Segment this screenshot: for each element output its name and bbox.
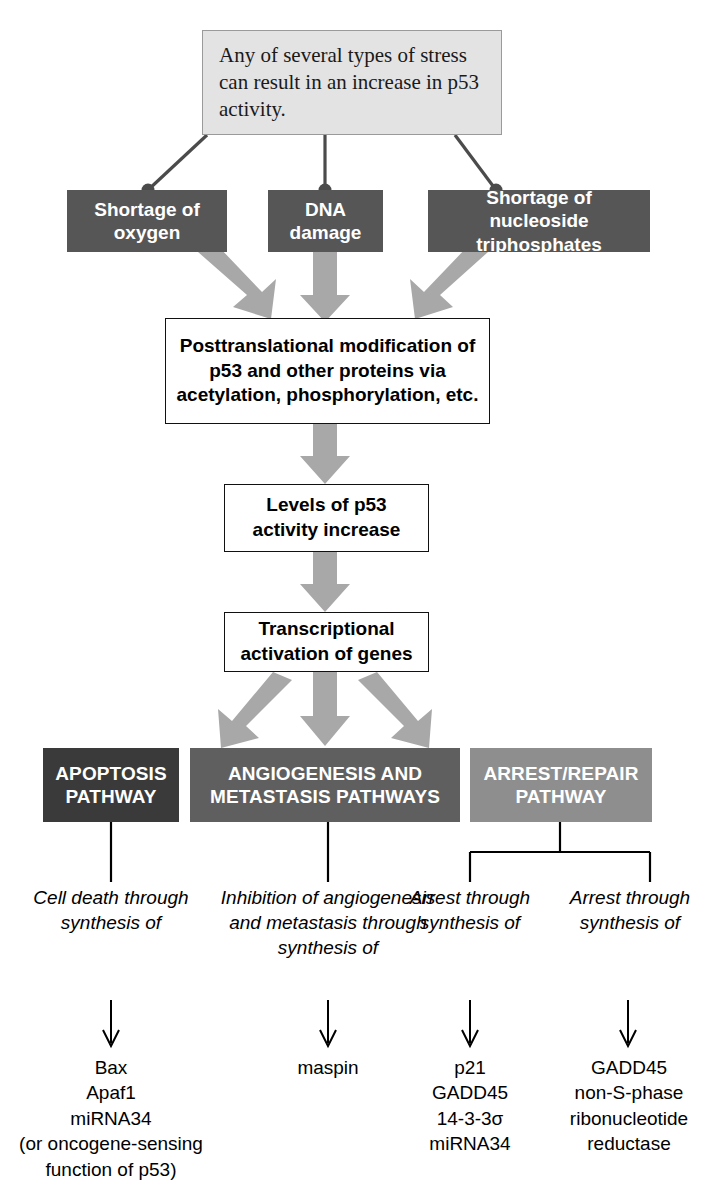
pathway-connectors	[111, 822, 650, 882]
stress-box-dna-damage: DNA damage	[268, 190, 383, 252]
stress-box-nucleoside-label: Shortage of nucleoside triphosphates	[434, 186, 644, 256]
gene-arrows	[103, 1000, 636, 1046]
gene-list-apoptosis: Bax Apaf1 miRNA34 (or oncogene-sensing f…	[4, 1055, 218, 1182]
stress-box-oxygen: Shortage of oxygen	[67, 190, 227, 252]
gene-list-arrest-left: p21 GADD45 14-3-3σ miRNA34	[404, 1055, 536, 1157]
process-box-posttranslational: Posttranslational modification of p53 an…	[165, 318, 490, 424]
pathway-banner-apoptosis-label: APOPTOSIS PATHWAY	[49, 762, 173, 808]
pathway-banner-arrest-repair-label: ARREST/REPAIR PATHWAY	[476, 762, 646, 808]
block-arrow-to-levels	[300, 424, 350, 484]
process-box-levels: Levels of p53 activity increase	[224, 484, 429, 552]
gene-list-angiogenesis: maspin	[258, 1055, 398, 1080]
gene-list-arrest-right: GADD45 non-S-phase ribonucleotide reduct…	[546, 1055, 712, 1157]
process-box-transcription-label: Transcriptional activation of genes	[233, 617, 420, 666]
process-box-transcription: Transcriptional activation of genes	[224, 612, 429, 672]
block-arrow-to-transcription	[300, 552, 350, 612]
stress-box-oxygen-label: Shortage of oxygen	[73, 198, 221, 244]
converging-block-arrows	[198, 246, 488, 322]
pathway-banner-angiogenesis-label: ANGIOGENESIS AND METASTASIS PATHWAYS	[196, 762, 454, 808]
p53-pathway-diagram: Any of several types of stress can resul…	[0, 0, 717, 1186]
descriptor-arrest-right: Arrest through synthesis of	[564, 885, 696, 935]
descriptor-arrest-left: Arrest through synthesis of	[404, 885, 536, 935]
stress-callout-box: Any of several types of stress can resul…	[202, 30, 502, 135]
pathway-banner-apoptosis: APOPTOSIS PATHWAY	[43, 748, 179, 822]
process-box-posttranslational-label: Posttranslational modification of p53 an…	[174, 334, 481, 408]
stress-callout-text: Any of several types of stress can resul…	[219, 42, 487, 124]
stress-box-nucleoside: Shortage of nucleoside triphosphates	[428, 190, 650, 252]
process-box-levels-label: Levels of p53 activity increase	[233, 493, 420, 542]
pathway-banner-arrest-repair: ARREST/REPAIR PATHWAY	[470, 748, 652, 822]
descriptor-apoptosis: Cell death through synthesis of	[31, 885, 191, 935]
fanout-block-arrows	[218, 672, 432, 748]
pathway-banner-angiogenesis: ANGIOGENESIS AND METASTASIS PATHWAYS	[190, 748, 460, 822]
connector-overlay	[0, 0, 717, 1186]
stress-box-dna-damage-label: DNA damage	[274, 198, 377, 244]
